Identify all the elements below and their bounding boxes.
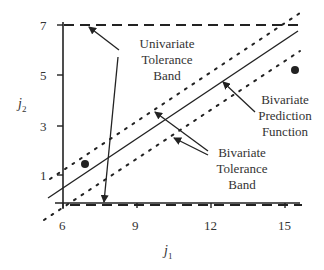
label-line: Bivariate (250, 92, 320, 108)
label-line: Function (250, 124, 320, 140)
label-line: Band (122, 68, 212, 84)
bivariate-prediction-function-label: Bivariate Prediction Function (250, 92, 320, 140)
y-tick-label-7: 7 (40, 19, 47, 32)
y-tick-label-3: 3 (40, 120, 47, 133)
y-axis-title: j2 (18, 96, 26, 114)
arrow-bivariate-upper (155, 112, 208, 151)
x-tick-label-6: 6 (59, 219, 66, 232)
x-axis-ticks (63, 203, 285, 209)
arrow-univariate-upper (89, 27, 119, 50)
bivariate-tolerance-band-label: Bivariate Tolerance Band (205, 145, 279, 193)
data-point-left (81, 160, 89, 168)
x-axis-title: j1 (164, 243, 172, 261)
y-tick-label-5: 5 (40, 69, 47, 82)
y-tick-label-1: 1 (40, 169, 47, 182)
y-axis-ticks (57, 25, 63, 175)
label-line: Tolerance (122, 52, 212, 68)
arrow-univariate-lower (104, 57, 118, 202)
x-tick-label-9: 9 (132, 219, 139, 232)
x-tick-label-15: 15 (278, 219, 291, 232)
x-axis-title-sub: 1 (168, 251, 173, 261)
label-line: Bivariate (205, 145, 279, 161)
y-axis-title-sub: 2 (22, 104, 27, 114)
label-line: Univariate (122, 36, 212, 52)
data-point-right (291, 66, 299, 74)
label-line: Prediction (250, 108, 320, 124)
x-tick-label-12: 12 (204, 219, 217, 232)
label-line: Tolerance (205, 161, 279, 177)
univariate-tolerance-band-label: Univariate Tolerance Band (122, 36, 212, 84)
label-line: Band (205, 177, 279, 193)
